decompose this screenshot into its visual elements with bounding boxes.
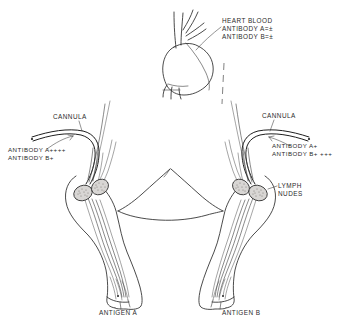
label-antibody-left: ANTIBODY A++++ ANTIBODY B+ [8,146,66,161]
torso-outline-icon [118,169,223,220]
dashed-connector-center [222,63,224,104]
label-antibody-right: ANTIBODY A+ ANTIBODY B+ +++ [272,142,332,157]
label-cannula-left: CANNULA [53,113,87,121]
label-heart-blood: HEART BLOOD ANTIBODY A=± ANTIBODY B=± [222,17,273,40]
diagram-canvas [0,0,341,333]
label-lymph-nodes: LYMPH NUDES [278,182,303,198]
label-antigen-a: ANTIGEN A [99,309,137,317]
lymph-node-icon-left-outer [71,182,94,203]
lymphatic-antibody-diagram: HEART BLOOD ANTIBODY A=± ANTIBODY B=± CA… [0,0,341,333]
lymph-node-icon-right-outer [246,182,269,203]
lymph-vessel-icon-left-upper [89,104,105,182]
label-cannula-right: CANNULA [262,112,296,120]
heart-icon [163,10,213,99]
label-antigen-b: ANTIGEN B [222,309,261,317]
lymph-vessel-icon-right-upper [236,104,252,182]
leader-line-cannula-left [79,121,82,131]
leader-line-lymph-nodes [268,186,277,189]
